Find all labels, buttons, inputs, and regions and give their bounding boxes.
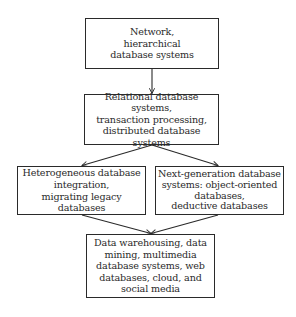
node-label: Next-generation database systems: object…	[158, 169, 281, 211]
node-network-hierarchical: Network, hierarchical database systems	[85, 18, 219, 69]
node-relational: Relational database systems, transaction…	[84, 94, 219, 145]
node-next-generation: Next-generation database systems: object…	[155, 166, 284, 215]
node-label: Heterogeneous database integration, migr…	[20, 167, 143, 213]
node-label: Network, hierarchical database systems	[110, 26, 193, 61]
node-heterogeneous: Heterogeneous database integration, migr…	[17, 166, 146, 215]
edge-n4-n5	[151, 215, 218, 234]
node-label: Data warehousing, data mining, multimedi…	[94, 237, 207, 295]
node-label: Relational database systems, transaction…	[87, 91, 216, 149]
edge-n3-n5	[82, 215, 151, 234]
node-data-warehousing: Data warehousing, data mining, multimedi…	[86, 234, 215, 298]
diagram-canvas: Network, hierarchical database systems R…	[0, 0, 296, 317]
